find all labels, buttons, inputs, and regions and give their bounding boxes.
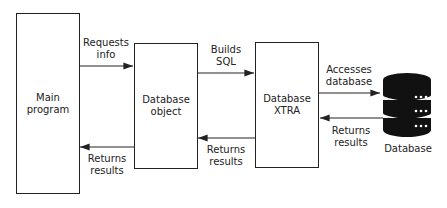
edge-label-returns-results-dbobj: Returns results <box>200 144 252 168</box>
main-program-box: Main program <box>16 13 80 194</box>
main-program-label: Main program <box>27 92 70 116</box>
database-label: Database <box>380 143 436 155</box>
database-xtra-box: Database XTRA <box>255 42 319 168</box>
database-object-label: Database object <box>142 94 190 118</box>
edge-label-returns-results-main: Returns results <box>82 153 132 177</box>
database-object-box: Database object <box>134 43 198 169</box>
edge-label-builds-sql: Builds SQL <box>200 44 252 68</box>
edge-label-returns-results-db: Returns results <box>326 125 376 149</box>
database-icon <box>383 73 431 137</box>
edge-label-accesses-database: Accesses database <box>320 64 378 88</box>
edge-label-requests-info: Requests info <box>80 37 132 61</box>
database-xtra-label: Database XTRA <box>263 93 311 117</box>
